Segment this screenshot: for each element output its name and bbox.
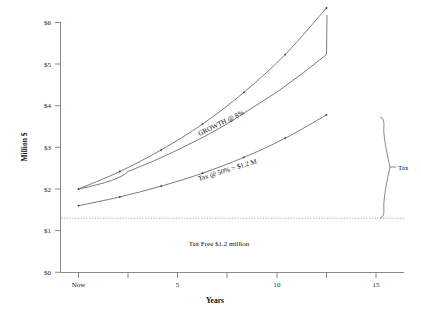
tax-curve-label: Tax @ 50% > $1.2 M <box>197 157 258 183</box>
data-point <box>243 92 245 94</box>
data-point <box>202 123 204 125</box>
x-tick-label-now: Now <box>72 281 87 289</box>
y-tick-label-4: $4 <box>44 102 52 110</box>
growth-curve <box>79 15 328 189</box>
y-tick-label-5: $5 <box>44 61 52 69</box>
y-tick-label-2: $2 <box>44 186 52 194</box>
tax-brace-label: Tax <box>398 164 409 172</box>
y-tick-label-3: $3 <box>44 144 52 152</box>
data-point <box>243 157 245 159</box>
tax-free-label: Tax Free $1.2 million <box>189 240 250 248</box>
data-point <box>284 137 286 139</box>
y-tick-label-1: $1 <box>44 227 52 235</box>
x-tick-label-15: 15 <box>373 281 381 289</box>
y-tick-label-0: $0 <box>44 269 52 277</box>
data-point <box>119 171 121 173</box>
tax-brace <box>380 117 390 218</box>
x-tick-label-5: 5 <box>176 281 180 289</box>
x-axis-title: Years <box>206 296 224 305</box>
data-point <box>119 196 121 198</box>
line-chart: $6 $5 $4 $3 $2 $1 $0 Million $ Now 5 10 … <box>0 0 421 314</box>
data-point <box>160 185 162 187</box>
data-point <box>284 54 286 56</box>
growth-curve-line <box>79 8 327 189</box>
growth-data-points <box>78 7 328 190</box>
y-tick-label-6: $6 <box>44 19 52 27</box>
data-point <box>78 205 80 207</box>
data-point <box>160 149 162 151</box>
data-point <box>78 188 80 190</box>
data-point <box>326 114 328 116</box>
y-axis-title: Million $ <box>20 132 29 161</box>
data-point <box>326 7 328 9</box>
chart-container: $6 $5 $4 $3 $2 $1 $0 Million $ Now 5 10 … <box>0 0 421 314</box>
x-tick-label-10: 10 <box>274 281 282 289</box>
